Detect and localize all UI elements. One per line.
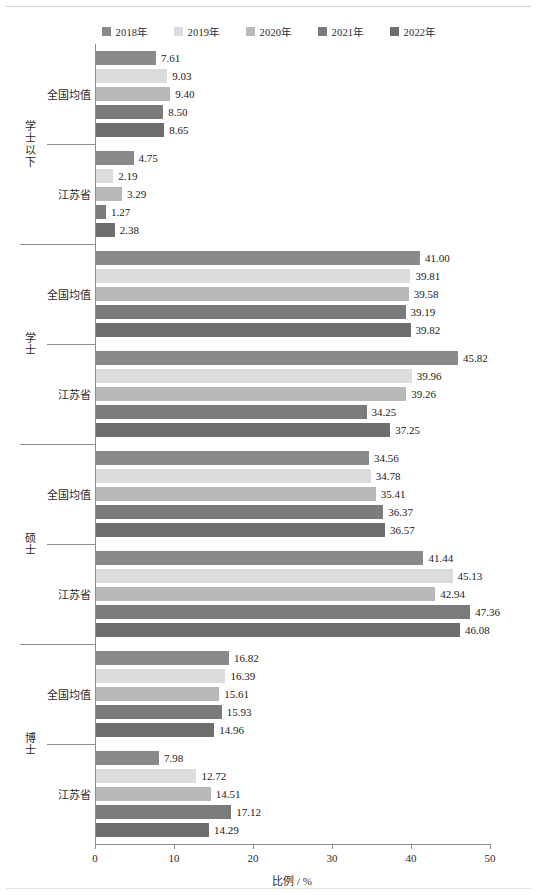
bar[interactable] [96,423,390,437]
subgroup-label-全国均值: 全国均值 [43,86,91,102]
subgroup-label-全国均值: 全国均值 [43,486,91,502]
bar[interactable] [96,323,411,337]
bar[interactable] [96,387,406,401]
bar-value-label: 3.29 [123,187,146,201]
bar[interactable] [96,469,371,483]
x-axis-label: 比例 / % [272,872,312,888]
subgroup-label-江苏省: 江苏省 [43,386,91,402]
bar-value-label: 36.57 [386,523,415,537]
bar[interactable] [96,823,209,837]
group-label-学士以下: 学士以下 [22,120,38,168]
bar-value-label: 7.98 [160,751,183,765]
bar-value-label: 34.25 [368,405,397,419]
legend-item-2020年[interactable]: 2020年 [246,24,292,39]
bar[interactable] [96,523,385,537]
bar-value-label: 45.13 [454,569,483,583]
bar[interactable] [96,223,115,237]
bar-value-label: 39.26 [407,387,436,401]
bar-value-label: 47.36 [471,605,500,619]
bar-value-label: 37.25 [391,423,420,437]
bar-value-label: 1.27 [107,205,130,219]
bar-value-label: 36.37 [384,505,413,519]
bar[interactable] [96,169,113,183]
bar[interactable] [96,669,225,683]
bar[interactable] [96,551,423,565]
subgroup-label-江苏省: 江苏省 [43,786,91,802]
bar[interactable] [96,787,211,801]
bar[interactable] [96,605,470,619]
bar[interactable] [96,769,196,783]
bar[interactable] [96,251,420,265]
bar-value-label: 15.61 [220,687,249,701]
bar[interactable] [96,623,460,637]
x-tick [490,844,491,849]
bar-value-label: 39.58 [410,287,439,301]
bar[interactable] [96,723,214,737]
bar-value-label: 9.03 [168,69,191,83]
group-mid-tick [47,744,96,745]
bar[interactable] [96,287,409,301]
bar[interactable] [96,487,376,501]
bar[interactable] [96,151,134,165]
bar-value-label: 9.40 [171,87,194,101]
bar[interactable] [96,451,369,465]
subgroup-label-全国均值: 全国均值 [43,686,91,702]
legend-item-2018年[interactable]: 2018年 [102,24,148,39]
x-tick [411,844,412,849]
legend-item-2019年[interactable]: 2019年 [174,24,220,39]
bar[interactable] [96,651,229,665]
group-separator [20,444,96,445]
bar[interactable] [96,569,453,583]
group-mid-tick [47,344,96,345]
bar-value-label: 2.19 [114,169,137,183]
figure-canvas: 2018年2019年2020年2021年2022年 7.619.039.408.… [0,0,537,895]
legend-label: 2020年 [260,24,292,39]
bar[interactable] [96,351,458,365]
bar[interactable] [96,405,367,419]
subgroup-label-江苏省: 江苏省 [43,586,91,602]
bar-value-label: 39.19 [407,305,436,319]
bar[interactable] [96,705,222,719]
bar[interactable] [96,69,167,83]
chart-legend: 2018年2019年2020年2021年2022年 [0,22,537,40]
bar[interactable] [96,305,406,319]
x-tick-label: 0 [92,852,98,864]
bar[interactable] [96,87,170,101]
bar-value-label: 35.41 [377,487,406,501]
legend-item-2021年[interactable]: 2021年 [318,24,364,39]
bar-value-label: 42.94 [436,587,465,601]
legend-swatch-icon [174,27,183,36]
bar-value-label: 12.72 [197,769,226,783]
bar[interactable] [96,205,106,219]
bar-value-label: 2.38 [116,223,139,237]
bar[interactable] [96,751,159,765]
legend-label: 2018年 [116,24,148,39]
bar[interactable] [96,51,156,65]
bar[interactable] [96,105,163,119]
group-mid-tick [47,144,96,145]
bar-value-label: 46.08 [461,623,490,637]
legend-swatch-icon [318,27,327,36]
bar-value-label: 16.39 [226,669,255,683]
group-separator [20,644,96,645]
bar[interactable] [96,269,410,283]
legend-swatch-icon [390,27,399,36]
bar[interactable] [96,587,435,601]
x-tick-label: 50 [485,852,496,864]
bar[interactable] [96,369,412,383]
x-tick-label: 40 [406,852,417,864]
x-tick [253,844,254,849]
bar-value-label: 14.51 [212,787,241,801]
bar[interactable] [96,687,219,701]
bar[interactable] [96,505,383,519]
x-axis-line [95,844,491,845]
legend-item-2022年[interactable]: 2022年 [390,24,436,39]
bar[interactable] [96,187,122,201]
plot-area: 7.619.039.408.508.654.752.193.291.272.38… [95,44,490,844]
x-tick [174,844,175,849]
bar[interactable] [96,805,231,819]
bar-value-label: 39.96 [413,369,442,383]
bar[interactable] [96,123,164,137]
bar-value-label: 34.56 [370,451,399,465]
x-tick [332,844,333,849]
